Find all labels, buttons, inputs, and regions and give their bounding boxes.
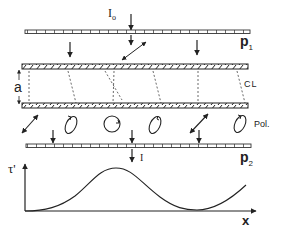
liquid-crystal-label: CL (244, 80, 258, 89)
y-axis-label: τ' (8, 162, 16, 175)
polarization-states (22, 114, 248, 136)
liquid-crystal-directors (29, 71, 245, 103)
polarizer-1 (25, 30, 250, 34)
cell-thickness-label: a (14, 80, 22, 94)
polarization-label: Pol. (254, 120, 270, 129)
light-arrows-upper (70, 35, 197, 60)
x-axis-label: x (242, 214, 249, 227)
incident-intensity-label: Io (108, 7, 116, 22)
transmission-curve (25, 168, 246, 211)
light-arrows-lower (53, 130, 199, 143)
chart-axes (25, 164, 256, 211)
polarizer-2-label: p2 (240, 150, 253, 168)
transmitted-intensity-label: I (140, 153, 143, 163)
cell-bottom-plate (22, 103, 248, 108)
cell-top-plate (22, 64, 248, 69)
polarizer-2 (26, 144, 251, 148)
polarizer-1-label: p1 (240, 34, 253, 52)
